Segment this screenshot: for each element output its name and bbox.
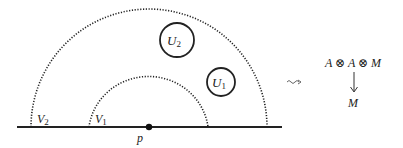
diagram-canvas: U2 U1 V2 V1 p A ⊗ A ⊗ M M — [0, 0, 403, 148]
algebra-bottom: M — [347, 96, 359, 110]
label-v2: V2 — [37, 112, 49, 127]
label-u2: U2 — [167, 33, 181, 49]
label-v1: V1 — [95, 112, 107, 127]
inner-arc-v1 — [89, 76, 208, 127]
algebra-top: A ⊗ A ⊗ M — [324, 56, 382, 70]
label-u1: U1 — [212, 75, 226, 91]
down-arrow-icon — [351, 72, 358, 92]
label-p: p — [136, 131, 143, 145]
point-p — [146, 124, 152, 130]
outer-arc-v2 — [31, 9, 267, 127]
squiggle-arrow-icon — [287, 80, 301, 84]
